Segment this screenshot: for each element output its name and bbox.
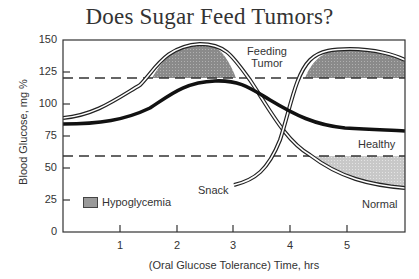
x-ticks — [120, 225, 347, 232]
y-tick-label: 150 — [27, 33, 57, 45]
legend: Hypoglycemia — [83, 196, 171, 208]
y-tick-label: 0 — [27, 225, 57, 237]
x-tick-label: 3 — [223, 239, 243, 251]
y-tick-label: 50 — [27, 161, 57, 173]
legend-label: Hypoglycemia — [102, 196, 171, 208]
y-tick-label: 25 — [27, 193, 57, 205]
x-tick-label: 2 — [167, 239, 187, 251]
y-ticks — [63, 72, 70, 200]
x-axis-label: (Oral Glucose Tolerance) Time, hrs — [63, 259, 405, 271]
x-tick-label: 5 — [337, 239, 357, 251]
hypoglycemia-swatch-icon — [83, 197, 98, 208]
snack-annotation: Snack — [198, 184, 229, 196]
y-tick-label: 125 — [27, 65, 57, 77]
healthy-annotation: Healthy — [358, 138, 395, 150]
tumor-label: Tumor — [242, 57, 292, 69]
feeding-tumor-annotation: Feeding Tumor — [242, 45, 292, 69]
x-tick-label: 1 — [110, 239, 130, 251]
x-tick-label: 4 — [280, 239, 300, 251]
y-tick-label: 75 — [27, 129, 57, 141]
healthy-curve — [63, 81, 405, 131]
chart-plot — [0, 0, 419, 279]
normal-annotation: Normal — [362, 198, 397, 210]
y-tick-label: 100 — [27, 97, 57, 109]
hypoglycemia-shade — [315, 156, 405, 188]
feeding-label: Feeding — [242, 45, 292, 57]
y-axis-label: Blood Glucose, mg % — [17, 57, 29, 207]
